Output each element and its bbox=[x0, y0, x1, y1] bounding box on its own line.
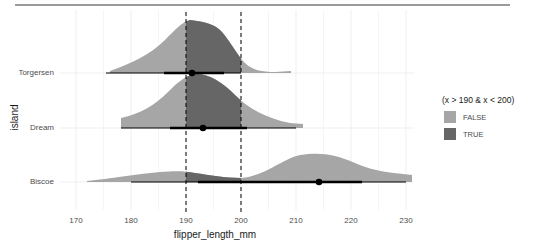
x-tick-210: 210 bbox=[281, 216, 311, 225]
legend-swatch-true bbox=[444, 128, 456, 140]
x-tick-220: 220 bbox=[336, 216, 366, 225]
legend-title: (x > 190 & x < 200) bbox=[442, 95, 514, 105]
y-label-biscoe: Biscoe bbox=[0, 177, 54, 186]
y-label-torgersen: Torgersen bbox=[0, 68, 54, 77]
legend-item-true: TRUE bbox=[442, 128, 514, 140]
legend: (x > 190 & x < 200) FALSE TRUE bbox=[442, 95, 514, 145]
legend-label-true: TRUE bbox=[463, 130, 483, 139]
legend-label-false: FALSE bbox=[463, 113, 486, 122]
legend-item-false: FALSE bbox=[442, 111, 514, 123]
density-biscoe bbox=[87, 154, 412, 182]
x-axis-title: flipper_length_mm bbox=[150, 229, 280, 240]
density-torgersen bbox=[110, 20, 291, 73]
density-dream bbox=[121, 74, 303, 128]
x-tick-190: 190 bbox=[171, 216, 201, 225]
y-axis-title: island bbox=[9, 98, 20, 138]
x-tick-230: 230 bbox=[391, 216, 421, 225]
x-tick-170: 170 bbox=[61, 216, 91, 225]
x-tick-180: 180 bbox=[116, 216, 146, 225]
legend-swatch-false bbox=[444, 111, 456, 123]
x-tick-200: 200 bbox=[226, 216, 256, 225]
